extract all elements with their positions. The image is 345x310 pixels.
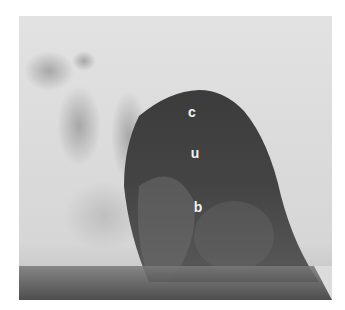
- table-edge: [19, 266, 332, 300]
- radiograph-drawing: [19, 16, 332, 300]
- label-c: c: [188, 105, 196, 119]
- bowel-loop: [57, 86, 101, 166]
- label-u: u: [191, 146, 200, 160]
- overlapping-structure: [194, 201, 274, 271]
- radiograph-image: c u b: [19, 16, 332, 300]
- bowel-loop: [72, 51, 96, 71]
- bowel-loop: [24, 51, 74, 91]
- label-b: b: [194, 200, 203, 214]
